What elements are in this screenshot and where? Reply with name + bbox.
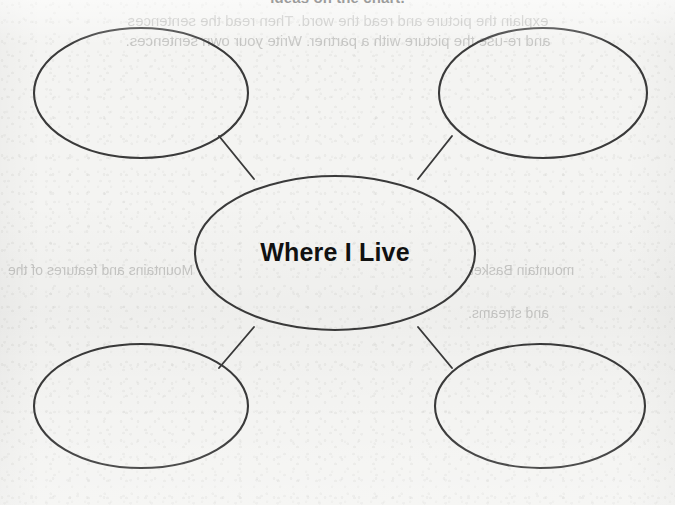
connector-bottom-left: [219, 327, 254, 368]
bubble-top-right[interactable]: [439, 28, 647, 158]
connector-top-right: [418, 136, 452, 179]
bubble-bottom-left[interactable]: [34, 344, 248, 468]
bubble-web-diagram: Where I Live: [0, 0, 675, 505]
bubble-bottom-right[interactable]: [435, 344, 645, 468]
worksheet-page: ideas on the chart. explain the picture …: [0, 0, 675, 505]
center-bubble-label: Where I Live: [260, 238, 410, 266]
bubble-top-left[interactable]: [34, 28, 248, 158]
connector-bottom-right: [418, 327, 452, 368]
connector-top-left: [219, 136, 254, 179]
